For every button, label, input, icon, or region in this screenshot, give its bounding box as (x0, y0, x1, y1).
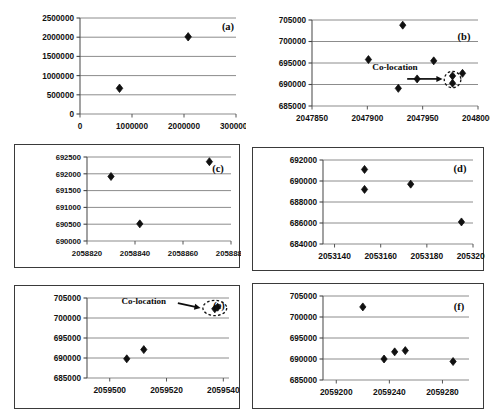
gridlines-c (87, 157, 231, 241)
y-tick-label: 691500 (56, 186, 81, 195)
data-point-marker (124, 355, 130, 363)
y-tick-label: 0 (69, 110, 74, 119)
y-tick-label: 688000 (290, 198, 318, 207)
y-tick-label: 686000 (290, 219, 318, 228)
data-point-marker (361, 185, 367, 193)
y-tick-label: 692500 (56, 153, 81, 162)
x-tick-label: 2058880 (216, 249, 241, 258)
data-point-marker (137, 220, 143, 228)
chart-panel-c: 6900006905006910006915006920006925002058… (14, 144, 240, 268)
data-point-marker (459, 69, 465, 77)
x-tick-label: 3000000 (220, 122, 246, 131)
series-markers-e (124, 303, 221, 363)
y-tick-label: 690000 (56, 237, 81, 246)
y-tick-label: 705000 (279, 16, 307, 25)
chart-canvas-b: 6850006900006950007000007050002047850204… (250, 6, 490, 140)
axes-c (84, 157, 232, 245)
y-tick-label: 700000 (54, 314, 82, 323)
panel-label-c: (c) (212, 163, 224, 175)
y-tick-label: 690000 (54, 354, 82, 363)
y-tick-label: 692000 (56, 170, 81, 179)
y-tick-label: 695000 (279, 59, 307, 68)
panel-label-b: (b) (458, 31, 471, 43)
series-markers-f (360, 303, 456, 366)
data-point-marker (365, 56, 371, 64)
y-tick-label: 2000000 (42, 33, 74, 42)
co-location-arrow-shaft (178, 303, 197, 307)
co-location-arrow-head (436, 76, 442, 82)
axes-d (320, 160, 474, 248)
x-tick-label: 2047850 (296, 114, 328, 123)
y-tick-label: 691000 (56, 203, 81, 212)
chart-canvas-f: 6850006900006950007000007050002059200205… (253, 284, 485, 410)
x-tick-label: 2053160 (364, 251, 397, 261)
y-tick-label: 695000 (290, 334, 318, 343)
chart-canvas-a: 0500000100000015000002000000250000001000… (4, 4, 246, 140)
figure-scatter-panel-grid: 0500000100000015000002000000250000001000… (0, 0, 493, 419)
y-tick-label: 690000 (290, 177, 318, 186)
x-tick-label: 0 (78, 122, 83, 131)
y-tick-label: 685000 (279, 102, 307, 111)
y-tick-label: 685000 (290, 376, 318, 385)
data-point-marker (395, 84, 401, 92)
y-tick-label: 690500 (56, 220, 81, 229)
axes-a (77, 18, 237, 118)
y-tick-label: 690000 (279, 80, 307, 89)
y-tick-label: 685000 (54, 374, 82, 383)
data-point-marker (381, 355, 387, 363)
gridlines-e (87, 298, 229, 378)
data-point-marker (360, 303, 366, 311)
y-tick-label: 705000 (54, 294, 82, 303)
chart-panel-d: 6840006860006880006900006920002053140205… (252, 147, 484, 271)
chart-panel-a: 0500000100000015000002000000250000001000… (4, 4, 246, 140)
chart-panel-b: 6850006900006950007000007050002047850204… (250, 6, 490, 140)
gridlines-a (80, 18, 236, 114)
data-point-marker (361, 165, 367, 173)
y-tick-label: 692000 (290, 156, 318, 165)
x-tick-label: 2047950 (407, 114, 439, 123)
x-tick-label: 2059520 (150, 385, 183, 395)
y-tick-label: 2500000 (42, 14, 74, 23)
x-tick-label: 2059200 (320, 387, 353, 397)
x-tick-label: 2000000 (168, 122, 200, 131)
series-markers-c (108, 158, 213, 228)
chart-panel-f: 6850006900006950007000007050002059200205… (252, 283, 484, 409)
x-tick-label: 2059540 (207, 385, 240, 395)
series-markers-b (365, 21, 465, 92)
series-markers-d (361, 165, 464, 226)
data-point-marker (414, 75, 420, 83)
y-tick-label: 684000 (290, 240, 318, 249)
co-location-arrow-head (194, 304, 201, 310)
y-tick-label: 695000 (54, 334, 82, 343)
chart-canvas-c: 6900006905006910006915006920006925002058… (15, 145, 241, 269)
panel-label-e: (e) (213, 300, 225, 312)
series-markers-a (116, 33, 191, 93)
data-point-marker (400, 21, 406, 29)
x-tick-label: 2048000 (462, 114, 490, 123)
data-point-marker (458, 218, 464, 226)
x-tick-label: 2047900 (351, 114, 383, 123)
x-tick-label: 2058860 (168, 249, 199, 258)
panel-label-f: (f) (454, 301, 465, 313)
y-tick-label: 500000 (47, 91, 75, 100)
panel-label-a: (a) (222, 21, 235, 33)
data-point-marker (449, 79, 455, 87)
data-point-marker (185, 33, 192, 41)
x-tick-label: 2058820 (72, 249, 103, 258)
x-tick-label: 2059240 (373, 387, 406, 397)
chart-canvas-d: 6840006860006880006900006920002053140205… (253, 148, 485, 272)
x-tick-label: 2053200 (457, 251, 485, 261)
data-point-marker (431, 57, 437, 65)
co-location-label: Co-location (122, 296, 167, 306)
y-tick-label: 1000000 (42, 72, 74, 81)
axes-f (320, 296, 443, 384)
y-tick-label: 1500000 (42, 52, 74, 61)
y-tick-label: 705000 (290, 292, 318, 301)
data-point-marker (392, 348, 398, 356)
x-tick-label: 1000000 (116, 122, 148, 131)
x-tick-label: 2053180 (411, 251, 444, 261)
panel-label-d: (d) (454, 163, 467, 175)
co-location-label: Co-location (372, 62, 417, 72)
x-tick-label: 2059500 (93, 385, 126, 395)
data-point-marker (402, 347, 408, 355)
